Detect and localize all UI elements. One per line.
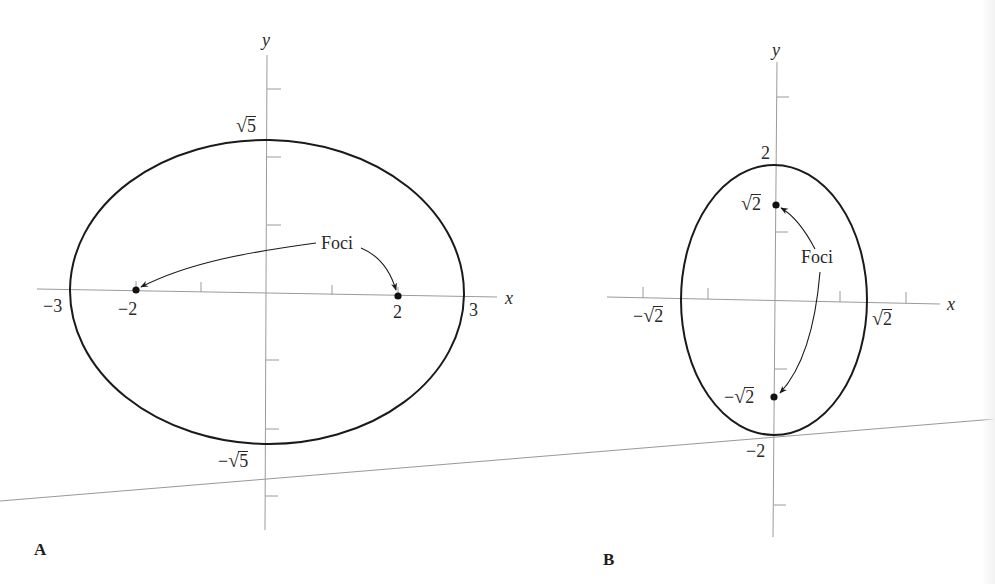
graph-a xyxy=(37,55,497,530)
graph-b-arrow-bottom xyxy=(780,272,820,393)
graph-a-x-axis xyxy=(37,289,497,297)
graph-a-x-label-neg-3: −3 xyxy=(43,297,62,315)
graph-a-arrow-right xyxy=(361,248,396,290)
graph-b-focus-top-label: √2 xyxy=(741,193,761,214)
graph-a-bottom-vertex-label: −√5 xyxy=(218,450,248,471)
graph-b-focus-bottom xyxy=(770,393,777,400)
graph-a-focus-left xyxy=(132,286,139,293)
graph-a-ellipse xyxy=(67,137,466,448)
graph-b-focus-top xyxy=(772,201,779,208)
graph-a-x-label-3: 3 xyxy=(469,301,478,319)
graph-a-top-vertex-label: √5 xyxy=(236,115,256,136)
graph-a-x-label-neg-2: −2 xyxy=(118,300,137,318)
graph-b-x-axis xyxy=(607,297,940,304)
graph-b-bottom-vertex-label: −2 xyxy=(746,442,765,460)
figure-canvas xyxy=(0,0,995,584)
graph-a-x-axis-label: x xyxy=(505,289,513,307)
graph-a-arrow-left xyxy=(141,243,316,287)
graph-a-x-label-2: 2 xyxy=(393,303,402,321)
graph-b xyxy=(607,62,940,537)
graph-a-y-ticks xyxy=(265,89,281,496)
graph-b-x-label-neg: −√2 xyxy=(633,305,663,326)
graph-b-foci-annotation: Foci xyxy=(801,248,833,266)
graph-b-x-axis-label: x xyxy=(947,295,955,313)
stray-page-line xyxy=(0,419,995,501)
graph-a-panel-label: A xyxy=(34,540,46,560)
graph-b-arrow-top xyxy=(781,208,815,249)
graph-b-panel-label: B xyxy=(603,550,614,570)
graph-a-y-axis-label: y xyxy=(262,31,270,49)
page-edge-shadow xyxy=(981,0,995,584)
graph-b-y-axis xyxy=(773,62,777,537)
graph-a-foci-annotation: Foci xyxy=(321,234,353,252)
graph-a-x-ticks xyxy=(136,281,398,296)
graph-b-x-label-pos: √2 xyxy=(872,308,892,329)
graph-b-focus-bottom-label: −√2 xyxy=(724,386,754,407)
graph-b-top-vertex-label: 2 xyxy=(761,144,770,162)
graph-a-focus-right xyxy=(394,292,401,299)
graph-b-y-axis-label: y xyxy=(772,41,780,59)
